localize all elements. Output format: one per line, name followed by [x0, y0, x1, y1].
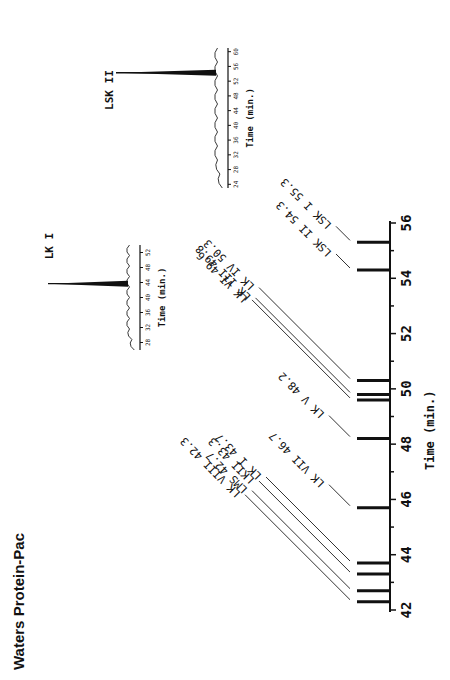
x-tick-label: 46: [398, 491, 414, 508]
peak-leader-line: [259, 481, 350, 572]
peak-leader-line: [329, 485, 350, 506]
inset-tick-label: 44: [144, 279, 151, 287]
inset-tick-label: 28: [144, 339, 151, 347]
main-chart: 4244464850525456Time (min.)LK VIII 42.3L…: [178, 175, 437, 618]
inset-tick-label: 60: [232, 48, 239, 56]
peak-label: LK V 48.2: [276, 369, 327, 420]
x-axis-label: Time (min.): [423, 391, 437, 470]
inset-tick-label: 52: [232, 77, 239, 85]
inset-tick-label: 40: [232, 121, 239, 129]
inset-chart-lk-i: 28323640444852Time (min.)LK I: [43, 233, 167, 350]
inset-tick-label: 52: [144, 249, 151, 257]
peak-leader-line: [266, 477, 350, 561]
peak-leader-line: [336, 254, 350, 268]
peak-leader-line: [259, 288, 350, 379]
inset-tick-label: 32: [232, 151, 239, 159]
inset-tick-label: 56: [232, 62, 239, 70]
x-tick-label: 50: [398, 380, 414, 397]
x-tick-label: 56: [398, 215, 414, 232]
inset-tick-label: 28: [232, 166, 239, 174]
inset-baseline-trace: [127, 245, 134, 350]
peak-leader-line: [329, 416, 350, 437]
inset-tick-label: 24: [232, 180, 239, 188]
peak-label: LK VII 46.7: [266, 429, 327, 490]
inset-title: LK I: [43, 233, 56, 260]
inset-tick-label: 36: [232, 136, 239, 144]
inset-title: LSK II: [103, 70, 116, 110]
inset-tick-label: 36: [144, 309, 151, 317]
inset-tick-label: 48: [144, 264, 151, 272]
inset-tick-label: 32: [144, 324, 151, 332]
inset-tick-label: 44: [232, 107, 239, 115]
inset-chart-lsk-ii: 24283236404448525660Time (min.)LSK II: [103, 48, 255, 188]
peak-leader-line: [252, 300, 350, 398]
x-tick-label: 44: [398, 546, 414, 563]
inset-baseline-trace: [215, 48, 222, 188]
peak-leader-line: [245, 495, 350, 600]
peak-leader-line: [252, 491, 350, 589]
peak-leader-line: [336, 226, 350, 240]
inset-axis-label: Time (min.): [157, 268, 167, 328]
chromatogram-figure: 4244464850525456Time (min.)LK VIII 42.3L…: [0, 0, 450, 680]
inset-axis-label: Time (min.): [245, 88, 255, 148]
x-tick-label: 42: [398, 602, 414, 619]
x-tick-label: 54: [398, 270, 414, 287]
peak-leader-line: [256, 298, 351, 393]
inset-tick-label: 48: [232, 92, 239, 100]
x-tick-label: 48: [398, 436, 414, 453]
inset-tick-label: 40: [144, 294, 151, 302]
x-tick-label: 52: [398, 325, 414, 342]
